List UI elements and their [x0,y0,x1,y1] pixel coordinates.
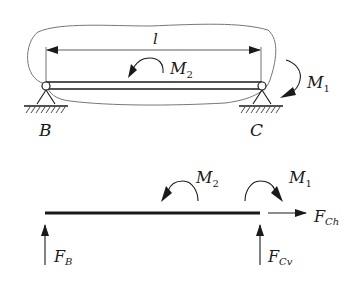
moment-M2-top-label: M2 [169,59,193,80]
force-FCh-label: FCh [313,207,339,227]
moment-M2-top-icon [128,58,163,78]
force-FB-label: FB [53,247,72,267]
support-label-B: B [38,120,52,140]
support-B-icon [24,82,68,113]
top-diagram: l B C M2 [24,24,330,140]
free-body-diagram: FCh FB FCv M2 M1 [45,168,339,267]
moment-M1-top-icon [280,60,300,98]
moment-M1-icon [245,181,283,202]
beam-diagram: l B C M2 [0,0,359,282]
force-FCv-label: FCv [267,247,293,267]
moment-M2-icon [161,181,198,202]
moment-M1-top-label: M1 [306,73,330,94]
support-C-icon [239,82,283,113]
moment-M2-label: M2 [195,168,219,189]
moment-M1-label: M1 [288,168,312,189]
cut-outline [28,24,276,105]
length-label: l [153,30,158,48]
support-label-C: C [250,120,263,140]
